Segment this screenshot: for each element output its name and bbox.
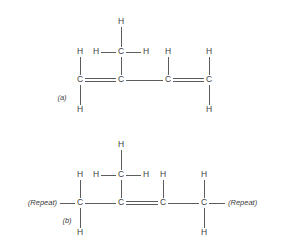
atom-methyl-h-left: H (93, 169, 99, 179)
atom-c3: C (160, 197, 166, 207)
structure-a: CCCCHHCHHHHHH(a) (57, 16, 212, 114)
atom-methyl-h-left: H (93, 46, 99, 56)
render-layer: CCCCHHCHHHHHH(a)CCCCHHCHHHHHH(b)(Repeat)… (28, 16, 258, 237)
atom-c2: C (118, 197, 124, 207)
atom-c1-h-up: H (77, 46, 83, 56)
part-label: (a) (57, 93, 67, 102)
atom-methyl-h-right: H (143, 46, 149, 56)
atom-methyl-h-up: H (118, 139, 124, 149)
atom-methyl-h-right: H (143, 169, 149, 179)
atom-c1-h-down: H (77, 227, 83, 237)
atom-c3-h-up: H (160, 169, 166, 179)
atom-c1: C (77, 197, 83, 207)
atom-c3: C (165, 74, 171, 84)
structure-canvas: CCCCHHCHHHHHH(a)CCCCHHCHHHHHH(b)(Repeat)… (0, 0, 285, 246)
atom-c4-h-up: H (201, 169, 207, 179)
atom-c4: C (206, 74, 212, 84)
atom-c1-h-up: H (77, 169, 83, 179)
atom-c4-h-down: H (201, 227, 207, 237)
atom-c4-h-down: H (206, 104, 212, 114)
repeat-label-left: (Repeat) (28, 198, 58, 207)
atom-methyl-c: C (118, 169, 124, 179)
atom-c4-h-up: H (206, 46, 212, 56)
chemical-structure-diagram: CCCCHHCHHHHHH(a)CCCCHHCHHHHHH(b)(Repeat)… (0, 0, 285, 246)
atom-c2: C (118, 74, 124, 84)
structure-b: CCCCHHCHHHHHH(b)(Repeat)(Repeat) (28, 139, 258, 237)
atom-methyl-c: C (118, 46, 124, 56)
repeat-label-right: (Repeat) (228, 198, 258, 207)
atom-c1-h-down: H (77, 104, 83, 114)
atom-c4: C (201, 197, 207, 207)
atom-c1: C (77, 74, 83, 84)
part-label: (b) (62, 216, 72, 225)
atom-methyl-h-up: H (118, 16, 124, 26)
atom-c3-h-up: H (165, 46, 171, 56)
